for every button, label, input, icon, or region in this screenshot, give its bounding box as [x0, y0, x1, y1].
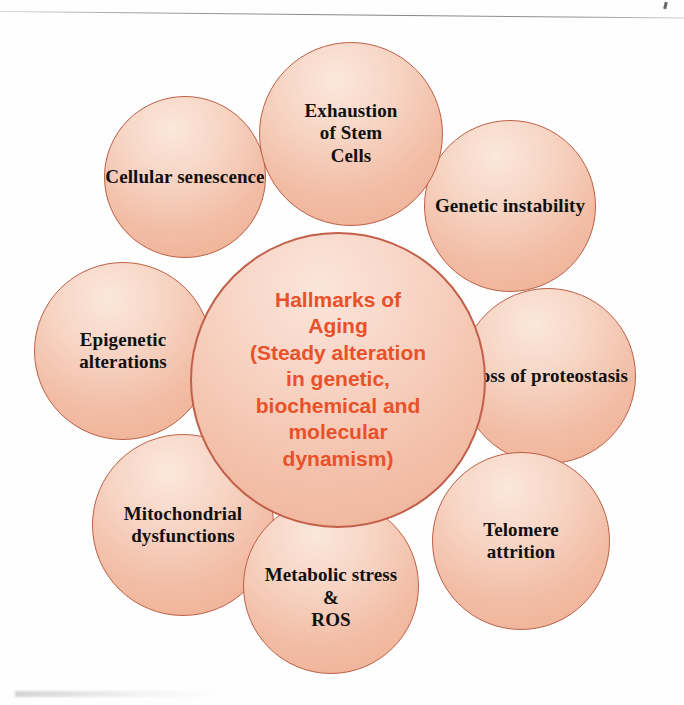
bubble-telomere-attrition[interactable]: Telomere attrition [432, 452, 610, 630]
center-bubble-label: Hallmarks of Aging (Steady alteration in… [193, 287, 483, 472]
scan-mark-artifact [663, 2, 668, 10]
bubble-hallmarks-of-aging[interactable]: Hallmarks of Aging (Steady alteration in… [190, 232, 486, 528]
bubble-epigenetic-alterations[interactable]: Epigenetic alterations [34, 262, 212, 440]
scan-smudge-artifact [15, 691, 225, 697]
bubble-genetic-instability[interactable]: Genetic instability [424, 120, 596, 292]
bubble-cellular-senescence[interactable]: Cellular senescence [104, 96, 266, 258]
bubble-label-epigenetic-alterations: Epigenetic alterations [35, 329, 211, 374]
bubble-loss-of-proteostasis[interactable]: Loss of proteostasis [460, 288, 636, 464]
bubble-label-telomere-attrition: Telomere attrition [451, 519, 591, 564]
bubble-exhaustion-of-stem-cells[interactable]: Exhaustion of Stem Cells [259, 42, 443, 226]
bubble-label-metabolic-stress-ros: Metabolic stress & ROS [238, 565, 424, 632]
scan-line-artifact [0, 11, 684, 19]
bubble-label-exhaustion-of-stem-cells: Exhaustion of Stem Cells [305, 100, 398, 167]
bubble-label-genetic-instability: Genetic instability [403, 195, 617, 217]
diagram-canvas: Cellular senescence Exhaustion of Stem C… [0, 0, 684, 705]
bubble-label-mitochondrial-dysfunctions: Mitochondrial dysfunctions [90, 503, 276, 548]
